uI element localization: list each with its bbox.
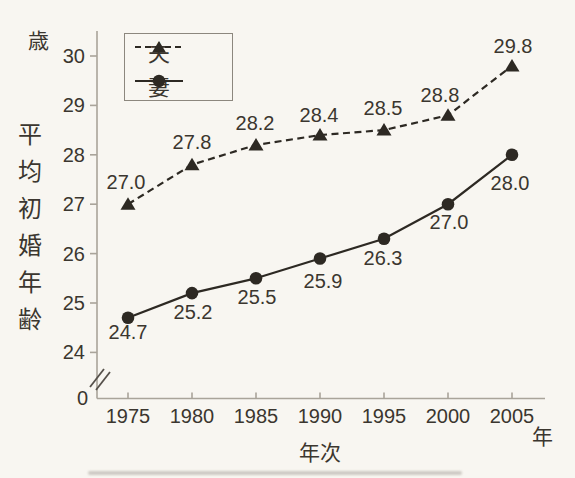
y-axis-title: 平均初婚年齢	[15, 122, 39, 344]
data-point-circle	[186, 287, 199, 300]
value-label: 25.2	[174, 301, 213, 323]
data-point-circle	[442, 198, 455, 211]
chart-canvas: 2425262728293001975198019851990199520002…	[0, 0, 575, 478]
value-label: 28.2	[236, 112, 275, 134]
y-tick-label: 30	[63, 45, 85, 67]
value-label: 26.3	[364, 247, 403, 269]
series-line-妻	[128, 155, 512, 318]
x-tick-label: 2000	[426, 405, 471, 427]
value-label: 28.5	[364, 97, 403, 119]
x-tick-label: 2005	[490, 405, 535, 427]
data-point-triangle	[505, 59, 520, 71]
y-tick-label: 28	[63, 144, 85, 166]
y-tick-label: 26	[63, 243, 85, 265]
value-label: 27.8	[173, 131, 212, 153]
x-tick-label: 1975	[106, 405, 151, 427]
y-tick-label: 25	[63, 292, 85, 314]
legend-entry-wife: 妻	[125, 73, 232, 97]
x-tick-label: 1985	[234, 405, 279, 427]
data-point-circle	[314, 252, 327, 265]
x-axis-title: 年次	[299, 436, 359, 466]
axis-break-mark	[96, 372, 110, 390]
data-point-circle	[506, 149, 519, 162]
data-point-triangle	[121, 197, 136, 210]
data-point-circle	[378, 232, 391, 245]
husband-dashed-line-sample	[134, 39, 184, 55]
wife-solid-line-sample	[134, 73, 184, 89]
value-label: 27.0	[107, 171, 146, 193]
x-tick-label: 1980	[170, 405, 215, 427]
x-tick-label: 1995	[362, 405, 407, 427]
value-label: 27.0	[430, 211, 469, 233]
data-point-circle	[250, 272, 263, 285]
data-point-triangle	[185, 158, 200, 171]
y-origin-label: 0	[77, 387, 88, 409]
data-point-triangle	[249, 138, 264, 151]
triangle-marker-icon	[152, 41, 166, 53]
value-label: 28.0	[491, 172, 530, 194]
y-tick-label: 29	[63, 94, 85, 116]
y-axis-unit-label: 歳	[28, 24, 49, 54]
legend: 夫 妻	[124, 33, 233, 101]
x-axis-unit-label: 年	[532, 420, 553, 450]
legend-entry-husband: 夫	[125, 39, 232, 63]
value-label: 28.4	[300, 104, 339, 126]
value-label: 25.9	[304, 270, 343, 292]
scan-artifact	[88, 471, 462, 475]
data-point-triangle	[441, 108, 456, 121]
y-tick-label: 27	[63, 193, 85, 215]
value-label: 25.5	[238, 286, 277, 308]
value-label: 24.7	[109, 321, 148, 343]
y-tick-label: 24	[63, 341, 85, 363]
value-label: 29.8	[494, 35, 533, 57]
chart-figure: 2425262728293001975198019851990199520002…	[0, 0, 575, 478]
x-tick-label: 1990	[298, 405, 343, 427]
value-label: 28.8	[421, 84, 460, 106]
circle-marker-icon	[153, 75, 165, 87]
